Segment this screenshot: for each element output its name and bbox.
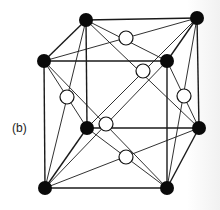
- corner-atom-front-top-left: [37, 54, 51, 68]
- face-atom-bottom: [119, 150, 133, 164]
- face-atom-right: [177, 89, 191, 103]
- corner-atom-back-top-left: [79, 13, 93, 27]
- corner-atom-back-bottom-left: [80, 121, 94, 135]
- corner-atom-back-top-right: [190, 11, 204, 25]
- fcc-unit-cell-diagram: (b): [0, 0, 220, 210]
- face-atom-back: [136, 64, 150, 78]
- face-atom-front: [99, 117, 113, 131]
- corner-atom-back-bottom-right: [192, 121, 206, 135]
- face-atom-top: [119, 31, 133, 45]
- face-atom-left: [60, 90, 74, 104]
- corner-atom-front-bottom-right: [160, 181, 174, 195]
- corner-atom-front-bottom-left: [38, 181, 52, 195]
- corner-atom-front-top-right: [160, 54, 174, 68]
- figure-label: (b): [12, 121, 27, 135]
- lattice-svg: [0, 0, 220, 210]
